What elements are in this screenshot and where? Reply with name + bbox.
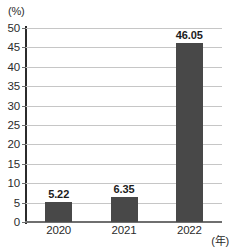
y-axis-tick-label: 35 (8, 80, 20, 92)
bar-value-label: 46.05 (176, 29, 203, 41)
y-axis-tick-label: 50 (8, 22, 20, 34)
y-axis-tick-label: 25 (8, 119, 20, 131)
y-axis-tick-mark (22, 222, 26, 223)
x-axis-unit-label: (年) (211, 232, 229, 248)
y-axis-tick-mark (22, 67, 26, 68)
y-axis-tick-mark (22, 203, 26, 204)
y-axis-tick-mark (22, 106, 26, 107)
plot-area: 05101520253035404550 5.226.3546.05 (26, 28, 222, 222)
y-axis-unit-label: (%) (8, 5, 25, 17)
y-axis-tick-label: 40 (8, 61, 20, 73)
y-axis-tick-label: 0 (14, 216, 20, 228)
y-axis-tick-mark (22, 28, 26, 29)
y-axis-tick-label: 45 (8, 41, 20, 53)
y-axis-tick-mark (22, 86, 26, 87)
y-axis-tick-label: 5 (14, 197, 20, 209)
y-axis-tick-label: 20 (8, 138, 20, 150)
bar-chart: (%) 05101520253035404550 5.226.3546.05 2… (0, 0, 235, 250)
y-axis-tick-label: 10 (8, 177, 20, 189)
y-axis-tick-mark (22, 183, 26, 184)
y-axis-tick-label: 30 (8, 100, 20, 112)
bar-value-label: 6.35 (113, 183, 134, 195)
y-axis-tick-mark (22, 125, 26, 126)
y-axis-tick-mark (22, 164, 26, 165)
y-axis-tick-mark (22, 47, 26, 48)
y-axis-tick-label: 15 (8, 158, 20, 170)
x-axis-tick-label: 2021 (112, 224, 137, 236)
bar-value-label: 5.22 (48, 188, 69, 200)
bar: 46.05 (176, 43, 203, 222)
x-axis-tick-label: 2022 (177, 224, 202, 236)
bar: 6.35 (111, 197, 138, 222)
x-axis-tick-label: 2020 (46, 224, 71, 236)
bar: 5.22 (45, 202, 72, 222)
y-axis-tick-mark (22, 144, 26, 145)
